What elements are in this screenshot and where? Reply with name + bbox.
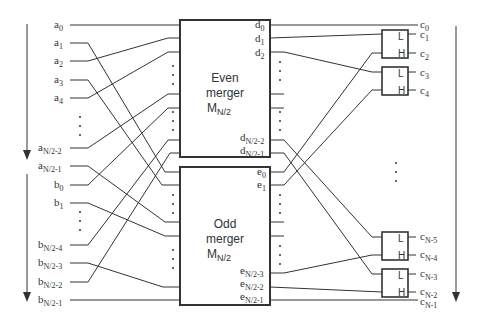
comparator-4: L H [382,269,416,298]
svg-text:H: H [398,250,405,261]
odd-merger-title: Odd [214,217,237,231]
label-a0: a0 [54,18,63,33]
svg-text:H: H [398,287,405,298]
input-wires [70,25,180,300]
svg-text:H: H [398,85,405,96]
label-cN-4: cN-4 [420,248,437,263]
comparator-3: L H [382,232,416,261]
label-a2: a2 [54,54,63,69]
output-labels-c: c0 c1 c2 c3 c4 cN-5 cN-4 cN-3 cN-2 cN-1 [420,18,437,310]
label-b0: b0 [54,178,64,193]
input-ellipsis [79,116,81,231]
label-cN-5: cN-5 [420,230,437,245]
arrow-head-icon [452,292,460,302]
label-bN2-4: bN/2-4 [38,238,62,253]
odd-even-merge-diagram: a0 a1 a2 a3 a4 aN/2-2 aN/2-1 b0 b1 bN/2-… [0,0,482,322]
label-c3: c3 [420,66,429,81]
even-merger: Even merger MN/2 d0 d1 d2 dN/2-2 dN/2-1 [172,18,281,159]
label-bN2-2: bN/2-2 [38,275,62,290]
label-bN2-3: bN/2-3 [38,256,62,271]
odd-merger-subtitle: merger [206,232,244,246]
svg-text:H: H [398,48,405,59]
input-labels-a: a0 a1 a2 a3 a4 aN/2-2 aN/2-1 [38,18,63,174]
arrow-head-icon [23,292,31,302]
comparators: L H L H L H L H [382,30,416,298]
label-c4: c4 [420,84,429,99]
label-c2: c2 [420,47,429,62]
label-a1: a1 [54,36,63,51]
arrow-head-icon [23,150,31,160]
label-cN-3: cN-3 [420,267,437,282]
svg-text:L: L [398,233,404,244]
output-ellipsis [395,162,397,182]
svg-text:L: L [398,270,404,281]
label-b1: b1 [54,196,64,211]
svg-text:L: L [398,68,404,79]
label-aN2-2: aN/2-2 [38,141,62,156]
odd-merger: Odd merger MN/2 e0 e1 eN/2-3 eN/2-2 eN/2… [172,165,281,305]
comparator-1: L H [382,30,416,59]
comparator-2: L H [382,67,416,96]
input-labels-b: b0 b1 bN/2-4 bN/2-3 bN/2-2 bN/2-1 [38,178,64,308]
label-aN2-1: aN/2-1 [38,159,62,174]
label-a3: a3 [54,73,63,88]
svg-text:L: L [398,31,404,42]
label-a4: a4 [54,91,63,106]
even-merger-title: Even [211,71,238,85]
even-merger-subtitle: merger [206,86,244,100]
label-bN2-1: bN/2-1 [38,293,62,308]
